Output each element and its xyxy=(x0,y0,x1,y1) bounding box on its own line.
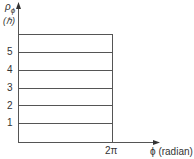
y-tick-3: 3 xyxy=(7,83,13,93)
y-tick-5: 5 xyxy=(7,47,13,57)
diagram-canvas xyxy=(0,0,194,159)
x-axis-arrow-icon xyxy=(153,140,160,145)
y-tick-4: 4 xyxy=(7,65,13,75)
y-tick-2: 2 xyxy=(7,101,13,111)
y-axis-arrow-icon xyxy=(16,2,21,9)
y-axis-subscript: ϕ xyxy=(11,6,15,15)
y-tick-1: 1 xyxy=(7,118,13,128)
y-axis-unit: (ℏ) xyxy=(3,16,15,26)
x-tick-2pi: 2π xyxy=(105,146,117,156)
y-axis-label: ρϕ xyxy=(5,2,15,16)
x-axis-label: ϕ (radian) xyxy=(150,147,193,157)
